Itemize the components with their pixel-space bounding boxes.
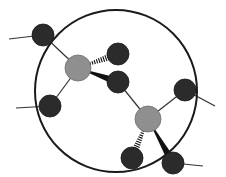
gray-atom xyxy=(65,55,91,81)
atoms xyxy=(32,24,196,174)
dark-atom xyxy=(174,79,196,101)
molecule-diagram xyxy=(0,0,226,177)
dark-atom xyxy=(107,43,129,65)
dark-atom xyxy=(162,152,184,174)
dark-atom xyxy=(32,24,54,46)
dark-atom xyxy=(39,95,61,117)
gray-atom xyxy=(135,106,161,132)
dark-atom xyxy=(107,71,129,93)
dark-atom xyxy=(121,147,143,169)
